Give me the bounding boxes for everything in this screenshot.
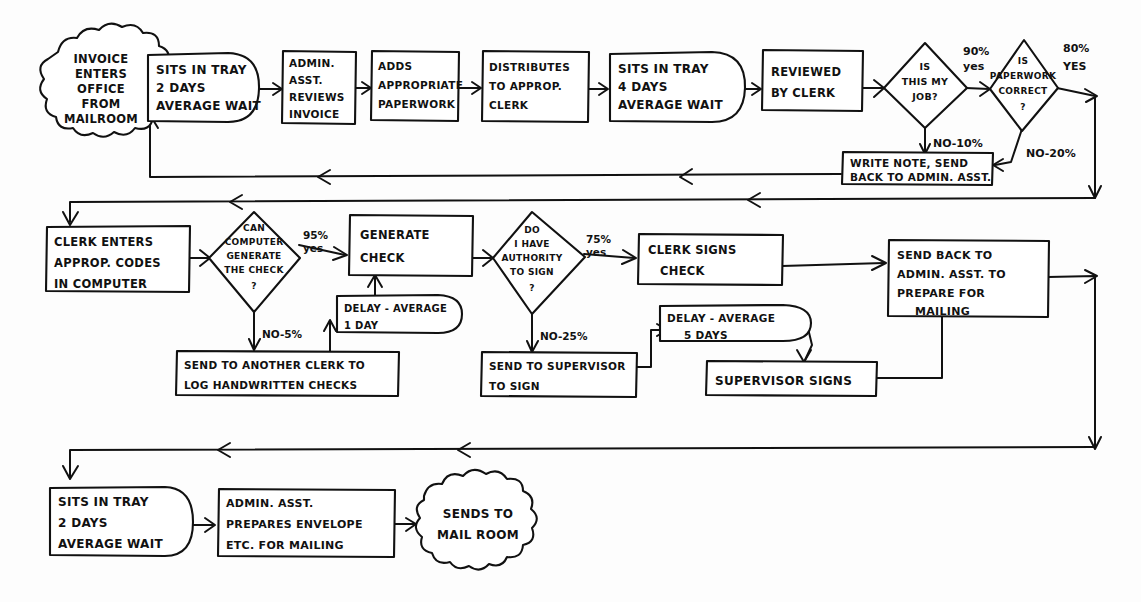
node-text-line: WRITE NOTE, SEND [850, 157, 968, 169]
node-is-this-my-job[interactable]: IS THIS MY JOB? [884, 43, 967, 128]
node-reviewed-by-clerk[interactable]: REVIEWED BY CLERK [762, 50, 863, 111]
node-text-line: PAPERWORK [378, 98, 456, 110]
node-send-to-supervisor[interactable]: SEND TO SUPERVISOR TO SIGN [481, 352, 637, 397]
node-text-line: ? [529, 283, 535, 293]
node-text-line: THIS MY [902, 76, 949, 87]
node-sits-tray-2days-top[interactable]: SITS IN TRAY 2 DAYS AVERAGE WAIT [148, 53, 261, 122]
node-text-line: ADMIN. ASST. [226, 497, 313, 510]
edge-label-paperwork-yes-word: YES [1062, 60, 1086, 73]
node-delay-1-day[interactable]: DELAY - AVERAGE 1 DAY [337, 295, 462, 333]
node-clerk-signs-check[interactable]: CLERK SIGNS CHECK [638, 234, 783, 285]
node-text-line: ASST. [289, 74, 323, 86]
node-send-another-clerk[interactable]: SEND TO ANOTHER CLERK TO LOG HANDWRITTEN… [176, 351, 399, 396]
node-generate-check[interactable]: GENERATE CHECK [349, 215, 473, 276]
node-text-line: SEND TO ANOTHER CLERK TO [184, 359, 365, 371]
node-text-line: CLERK ENTERS [54, 235, 153, 249]
node-text-line: GENERATE [226, 251, 281, 261]
node-text-line: I HAVE [514, 239, 549, 249]
node-text-line: AVERAGE WAIT [156, 99, 261, 113]
node-text-line: BY CLERK [771, 86, 836, 100]
node-text-line: LOG HANDWRITTEN CHECKS [184, 379, 357, 391]
node-text-line: SEND TO SUPERVISOR [489, 360, 626, 372]
node-text-line: INVOICE [73, 52, 128, 66]
node-text-line: MAIL ROOM [437, 528, 519, 542]
node-text-line: TO APPROP. [489, 80, 562, 92]
node-write-note[interactable]: WRITE NOTE, SEND BACK TO ADMIN. ASST. [842, 152, 993, 185]
node-text-line: SEND BACK TO [897, 249, 992, 262]
node-text-line: PREPARES ENVELOPE [226, 518, 363, 531]
node-send-back-prepare-mailing[interactable]: SEND BACK TO ADMIN. ASST. TO PREPARE FOR… [888, 240, 1049, 318]
node-text-line: TO SIGN [510, 267, 554, 277]
node-adds-paperwork[interactable]: ADDS APPROPRIATE PAPERWORK [371, 51, 463, 121]
node-text-line: ADDS [378, 60, 412, 72]
edge-label-paperwork-no: NO-20% [1026, 147, 1076, 160]
node-text-line: 4 DAYS [618, 80, 668, 94]
node-text-line: INVOICE [289, 108, 339, 120]
node-text-line: PAPERWORK [990, 71, 1057, 81]
node-text-line: 5 DAYS [684, 329, 728, 341]
node-text-line: CORRECT [998, 86, 1048, 96]
edge-label-paperwork-yes-pct: 80% [1063, 42, 1089, 55]
node-text-line: CAN [243, 223, 265, 233]
node-text-line: ? [251, 281, 257, 291]
node-text-line: THE CHECK [224, 265, 284, 275]
node-distributes[interactable]: DISTRIBUTES TO APPROP. CLERK [482, 51, 589, 122]
node-text-line: 1 DAY [344, 320, 379, 331]
edge-label-authority-yes-word: yes [586, 246, 606, 258]
node-sits-tray-2days-bottom[interactable]: SITS IN TRAY 2 DAYS AVERAGE WAIT [50, 487, 193, 556]
node-sits-tray-4days[interactable]: SITS IN TRAY 4 DAYS AVERAGE WAIT [610, 52, 745, 122]
node-text-line: PREPARE FOR [897, 287, 985, 300]
node-clerk-enters-codes[interactable]: CLERK ENTERS APPROP. CODES IN COMPUTER [46, 226, 190, 292]
edge-label-job-yes-word: yes [963, 60, 985, 73]
node-text-line: CHECK [360, 251, 406, 265]
node-text-line: AVERAGE WAIT [58, 537, 163, 551]
node-text-line: SENDS TO [443, 507, 513, 521]
edge-label-computer-no: NO-5% [262, 328, 303, 340]
edge-label-authority-no: NO-25% [540, 330, 588, 342]
node-text-line: 2 DAYS [156, 81, 206, 95]
node-admin-prepares-envelope[interactable]: ADMIN. ASST. PREPARES ENVELOPE ETC. FOR … [218, 489, 395, 557]
node-text-line: ADMIN. [289, 57, 335, 69]
node-text-line: TO SIGN [489, 380, 540, 392]
node-text-line: DELAY - AVERAGE [344, 303, 447, 314]
edge-label-computer-yes-word: yes [303, 242, 323, 254]
node-text-line: DISTRIBUTES [489, 61, 570, 73]
node-text-line: ENTERS [75, 67, 127, 81]
node-text-line: SITS IN TRAY [618, 62, 709, 76]
node-delay-5-days[interactable]: DELAY - AVERAGE 5 DAYS [660, 305, 811, 341]
node-can-computer-generate[interactable]: CAN COMPUTER GENERATE THE CHECK ? [209, 212, 300, 312]
node-text-line: BACK TO ADMIN. ASST. [850, 171, 991, 183]
node-text-line: FROM [81, 97, 120, 111]
node-text-line: ETC. FOR MAILING [226, 539, 344, 552]
node-text-line: ? [1020, 102, 1026, 112]
node-text-line: CLERK [489, 99, 529, 111]
node-sends-to-mail-room[interactable]: SENDS TO MAIL ROOM [416, 470, 537, 570]
flowchart-canvas: INVOICE ENTERS OFFICE FROM MAILROOM SITS… [0, 0, 1141, 602]
node-text-line: OFFICE [77, 82, 125, 96]
node-text-line: IS [1018, 56, 1028, 66]
node-text-line: CHECK [660, 264, 706, 278]
node-do-i-have-authority[interactable]: DO I HAVE AUTHORITY TO SIGN ? [493, 212, 585, 314]
node-is-paperwork-correct[interactable]: IS PAPERWORK CORRECT ? [990, 40, 1058, 131]
edge-label-authority-yes-pct: 75% [586, 233, 612, 245]
node-text-line: GENERATE [360, 228, 430, 242]
node-text-line: REVIEWS [289, 91, 345, 103]
edge-label-job-no: NO-10% [933, 137, 983, 150]
node-text-line: REVIEWED [771, 65, 841, 79]
node-supervisor-signs[interactable]: SUPERVISOR SIGNS [706, 361, 877, 396]
node-text-line: SUPERVISOR SIGNS [715, 374, 852, 388]
node-text-line: SITS IN TRAY [156, 63, 247, 77]
node-text-line: MAILROOM [64, 112, 138, 126]
node-text-line: SITS IN TRAY [58, 495, 149, 509]
node-text-line: DO [524, 225, 540, 235]
node-text-line: AVERAGE WAIT [618, 98, 723, 112]
node-text-line: APPROP. CODES [54, 256, 161, 270]
node-text-line: ADMIN. ASST. TO [897, 268, 1006, 281]
edge-label-computer-yes-pct: 95% [303, 229, 329, 241]
node-text-line: 2 DAYS [58, 516, 108, 530]
node-text-line: IN COMPUTER [54, 277, 147, 291]
node-text-line: MAILING [915, 305, 970, 318]
node-text-line: CLERK SIGNS [648, 243, 737, 257]
edge-label-job-yes-pct: 90% [963, 45, 989, 58]
node-admin-reviews[interactable]: ADMIN. ASST. REVIEWS INVOICE [282, 51, 356, 124]
